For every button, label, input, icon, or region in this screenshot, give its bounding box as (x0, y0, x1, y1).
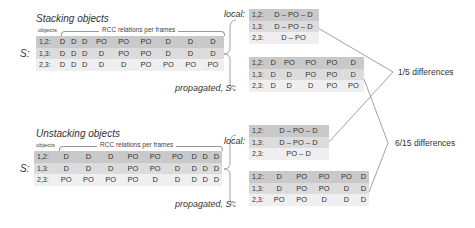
rcc-cell: PO (179, 59, 201, 71)
rcc-cell: PO (122, 163, 144, 175)
rcc-cell: PO (122, 151, 144, 163)
table-row: 1,3: D PO PO D D (249, 183, 369, 195)
objects-label: objects (36, 142, 55, 148)
table-row: 1,2: D PO PO PO D (249, 171, 369, 183)
rcc-cell: PO (313, 183, 335, 195)
rcc-cell: PO (144, 151, 166, 163)
pair-label: 1,3: (249, 69, 268, 81)
rcc-cell: D (57, 36, 68, 48)
rcc-cell: D (68, 48, 79, 60)
rcc-cell: D (200, 163, 211, 175)
rcc-cell: PO (100, 174, 122, 186)
rcc-cell: D (200, 151, 211, 163)
rcc-cell: PO (90, 36, 112, 48)
objects-label: objects (38, 27, 57, 33)
stacking-local-table: 1,2: D – PO – D 1,3: D – PO – D 2,3: D –… (249, 9, 319, 44)
pair-label: 2,3: (36, 59, 57, 71)
rcc-relations-label: RCC relations per frames (99, 26, 178, 33)
local-sequence: PO – D (268, 148, 329, 160)
unstacking-s-table: 1,2: D D D PO PO PO D D D 1,3: D D D PO … (34, 151, 222, 186)
local-sequence: D – PO – D (268, 9, 319, 21)
local-sequence: D – PO – D (268, 21, 319, 33)
rcc-cell: D (79, 48, 90, 60)
pair-label: 1,2: (249, 57, 268, 69)
rcc-cell: D (79, 36, 90, 48)
rcc-cell: D (100, 151, 122, 163)
unstacking-title: Unstacking objects (36, 128, 120, 139)
rcc-cell: D (211, 151, 222, 163)
table-row: 1,2: D D D PO PO PO D D D (36, 36, 224, 48)
rcc-cell: PO (290, 194, 312, 206)
rcc-cell: D (343, 57, 364, 69)
rcc-cell: PO (122, 174, 144, 186)
rcc-cell: PO (157, 59, 179, 71)
local-sequence: D – PO (268, 32, 319, 44)
table-row: 1,3: D – PO – D (249, 137, 329, 149)
rcc-cell: D (166, 163, 188, 175)
rcc-cell: D (343, 69, 364, 81)
rcc-cell: PO (321, 69, 342, 81)
s-label: S: (20, 48, 29, 59)
brace-stacking (224, 20, 236, 90)
propagated-label: propagated, S': (175, 83, 236, 93)
table-row: 1,3: D D PO PO D (249, 69, 364, 81)
propagated-differences-label: 6/15 differences (395, 138, 455, 148)
rcc-cell: D (79, 59, 90, 71)
local-label: local: (224, 136, 245, 146)
rcc-cell: PO (300, 57, 321, 69)
rcc-cell: D (90, 48, 112, 60)
rcc-cell: D (113, 59, 135, 71)
rcc-cell: PO (321, 57, 342, 69)
table-row: 2,3: D D D D D PO PO PO PO (36, 59, 224, 71)
table-row: 1,2: D – PO – D (249, 9, 319, 21)
propagated-label: propagated, S': (175, 199, 236, 209)
rcc-cell: PO (321, 80, 342, 92)
pair-label: 1,3: (249, 21, 268, 33)
pair-label: 1,2: (249, 9, 268, 21)
unstacking-local-table: 1,2: D – PO – D 1,3: D – PO – D 2,3: PO … (249, 125, 329, 160)
rcc-cell: PO (343, 80, 364, 92)
rcc-cell: PO (113, 48, 135, 60)
rcc-cell: D (268, 57, 279, 69)
rcc-cell: PO (77, 174, 99, 186)
rcc-cell: PO (300, 69, 321, 81)
stacking-title: Stacking objects (36, 13, 109, 24)
rcc-cell: D (90, 59, 112, 71)
rcc-cell: PO (144, 163, 166, 175)
rcc-cell: D (358, 171, 369, 183)
table-row: 2,3: D – PO (249, 32, 319, 44)
rcc-cell: PO (135, 48, 157, 60)
rcc-cell: D (77, 163, 99, 175)
rcc-cell: D (268, 171, 290, 183)
rcc-cell: PO (313, 171, 335, 183)
rcc-cell: D (68, 59, 79, 71)
local-label: local: (224, 9, 245, 19)
pair-label: 2,3: (249, 194, 268, 206)
rcc-cell: D (279, 80, 300, 92)
rcc-cell: D (57, 59, 68, 71)
unstacking-propagated-table: 1,2: D PO PO PO D 1,3: D PO PO D D 2,3: … (249, 171, 369, 206)
rcc-cell: D (166, 174, 188, 186)
pair-label: 1,2: (34, 151, 55, 163)
table-row: 1,2: D D D PO PO PO D D D (34, 151, 222, 163)
pair-label: 2,3: (34, 174, 55, 186)
rcc-cell: D (202, 36, 224, 48)
rcc-cell: D (189, 163, 200, 175)
table-row: 2,3: D D D PO PO (249, 80, 364, 92)
local-sequence: D – PO – D (268, 125, 329, 137)
pair-label: 2,3: (249, 80, 268, 92)
rcc-cell: PO (113, 36, 135, 48)
local-differences-label: 1/5 differences (398, 67, 454, 77)
rcc-relations-label: RCC relations per frames (97, 141, 176, 148)
rcc-cell: D (211, 174, 222, 186)
table-row: 2,3: PO PO PO PO D D D D D (34, 174, 222, 186)
rcc-cell: D (200, 174, 211, 186)
rcc-cell: PO (202, 59, 224, 71)
pair-label: 1,3: (249, 137, 268, 149)
rcc-cell: D (313, 194, 335, 206)
rcc-cell: D (335, 194, 357, 206)
rcc-cell: D (300, 80, 321, 92)
rcc-cell: D (55, 151, 77, 163)
pair-label: 1,3: (36, 48, 57, 60)
rcc-cell: PO (135, 36, 157, 48)
